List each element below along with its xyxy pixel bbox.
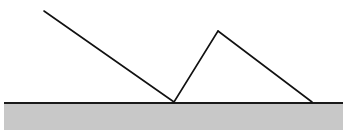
incident-ray <box>44 11 174 102</box>
reflected-ray-up <box>174 31 218 102</box>
ground-surface <box>4 102 343 130</box>
ray-diagram-figure <box>0 0 348 130</box>
ray-diagram-canvas <box>0 0 348 130</box>
descending-ray <box>218 31 312 102</box>
